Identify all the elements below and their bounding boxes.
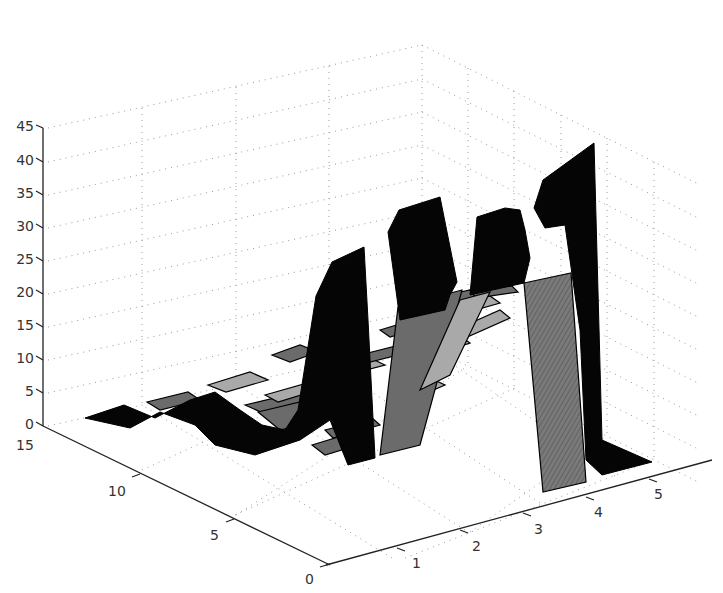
y-tick-label: 0: [305, 571, 314, 587]
z-tick-label: 40: [16, 152, 34, 168]
z-ticks: [36, 125, 43, 426]
x-tick-label: 1: [412, 555, 421, 571]
y-tick-label: 10: [108, 483, 126, 499]
y-ticks: [132, 474, 330, 567]
surface: [85, 143, 652, 492]
x-tick-labels: 1 2 3 4 5: [412, 486, 663, 571]
z-tick-label: 35: [16, 185, 34, 201]
z-tick-label: 30: [16, 218, 34, 234]
z-tick-label: 45: [16, 118, 34, 134]
x-tick-label: 3: [534, 521, 543, 537]
x-tick-label: 4: [594, 504, 603, 520]
y-tick-labels: 15 10 5 0: [16, 437, 314, 587]
x-tick-label: 2: [472, 538, 481, 554]
z-tick-label: 5: [25, 383, 34, 399]
y-tick-label: 15: [16, 437, 34, 453]
surface-chart: 45 40 35 30 25 20 15 10 5 0 15 10 5 0 1 …: [0, 0, 723, 593]
z-tick-label: 10: [16, 350, 34, 366]
z-tick-label: 20: [16, 284, 34, 300]
x-tick-label: 5: [654, 486, 663, 502]
grid-lines: [48, 45, 700, 558]
z-tick-label: 25: [16, 251, 34, 267]
z-tick-labels: 45 40 35 30 25 20 15 10 5 0: [16, 118, 34, 432]
y-tick-label: 5: [210, 527, 219, 543]
x-ticks: [397, 479, 657, 551]
axes: [36, 125, 712, 567]
z-tick-label: 15: [16, 317, 34, 333]
z-tick-label: 0: [25, 416, 34, 432]
